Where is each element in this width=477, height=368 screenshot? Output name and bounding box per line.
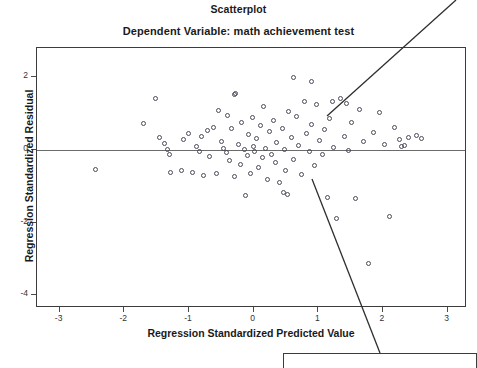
data-point (322, 127, 327, 132)
data-point (245, 153, 250, 158)
data-point (402, 143, 407, 148)
data-point (286, 109, 291, 114)
x-tick-label: 3 (432, 313, 462, 323)
chart-subtitle: Dependent Variable: math achievement tes… (0, 25, 477, 37)
x-tick-mark (123, 307, 124, 312)
data-point (366, 261, 371, 266)
data-point (261, 104, 266, 109)
data-point (157, 135, 162, 140)
data-point (263, 146, 268, 151)
x-tick-mark (447, 307, 448, 312)
data-point (224, 150, 229, 155)
data-point (232, 174, 237, 179)
data-point (387, 214, 392, 219)
data-point (256, 165, 261, 170)
x-tick-mark (382, 307, 383, 312)
data-point (250, 115, 255, 120)
data-point (254, 136, 259, 141)
data-point (93, 167, 98, 172)
data-point (165, 147, 170, 152)
data-point (346, 148, 351, 153)
y-axis-title: Regression Standardized Residual (23, 61, 35, 291)
data-point (201, 173, 206, 178)
data-point (349, 120, 354, 125)
x-tick-label: -3 (44, 313, 74, 323)
data-point (296, 143, 301, 148)
data-point (205, 128, 210, 133)
data-point (269, 152, 274, 157)
data-point (274, 140, 279, 145)
data-point (371, 130, 376, 135)
data-point (312, 163, 317, 168)
data-point (141, 121, 146, 126)
data-point (353, 196, 358, 201)
x-tick-label: 0 (238, 313, 268, 323)
data-point (219, 139, 224, 144)
y-tick-mark (31, 294, 36, 295)
x-tick-label: -2 (108, 313, 138, 323)
data-point (265, 177, 270, 182)
data-point (179, 168, 184, 173)
data-point (325, 195, 330, 200)
data-point (334, 216, 339, 221)
data-point (280, 126, 285, 131)
data-point (331, 145, 336, 150)
data-point (197, 149, 202, 154)
data-point (357, 107, 362, 112)
annotation-callout-text (284, 354, 476, 357)
x-tick-label: 2 (367, 313, 397, 323)
data-point (309, 79, 314, 84)
data-point (243, 193, 248, 198)
data-point (236, 142, 241, 147)
data-point (302, 99, 307, 104)
data-point (307, 149, 312, 154)
data-point (291, 157, 296, 162)
data-point (330, 99, 335, 104)
data-point (229, 126, 234, 131)
data-point (168, 170, 173, 175)
data-point (238, 162, 243, 167)
x-tick-mark (317, 307, 318, 312)
data-point (239, 120, 244, 125)
data-point (419, 136, 424, 141)
x-tick-mark (253, 307, 254, 312)
data-point (260, 155, 265, 160)
data-point (406, 135, 411, 140)
data-point (225, 113, 230, 118)
plot-area (36, 47, 466, 307)
data-point (289, 135, 294, 140)
data-point (304, 131, 309, 136)
data-point (153, 96, 158, 101)
data-point (242, 147, 247, 152)
data-point (338, 96, 343, 101)
data-point (227, 158, 232, 163)
data-point (181, 137, 186, 142)
data-point (248, 171, 253, 176)
data-point (186, 131, 191, 136)
data-point (392, 125, 397, 130)
data-point (216, 108, 221, 113)
data-point (162, 141, 167, 146)
data-point (232, 92, 237, 97)
data-point (291, 75, 296, 80)
data-point (377, 110, 382, 115)
data-point (211, 125, 216, 130)
scatter-points-layer (37, 48, 465, 306)
data-point (283, 168, 288, 173)
data-point (271, 118, 276, 123)
data-point (314, 102, 319, 107)
data-point (273, 160, 278, 165)
data-point (251, 144, 256, 149)
data-point (327, 116, 332, 121)
data-point (167, 152, 172, 157)
data-point (382, 142, 387, 147)
data-point (207, 154, 212, 159)
scatterplot-figure: Scatterplot Dependent Variable: math ach… (0, 0, 477, 368)
chart-title: Scatterplot (0, 3, 477, 15)
x-tick-label: 1 (302, 313, 332, 323)
data-point (252, 149, 257, 154)
data-point (267, 129, 272, 134)
data-point (344, 101, 349, 106)
data-point (309, 122, 314, 127)
data-point (397, 137, 402, 142)
